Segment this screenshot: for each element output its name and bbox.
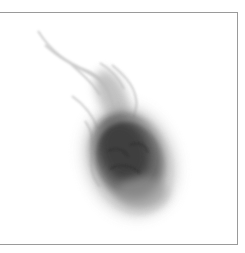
micrograph	[0, 13, 238, 245]
image-frame	[0, 12, 238, 245]
